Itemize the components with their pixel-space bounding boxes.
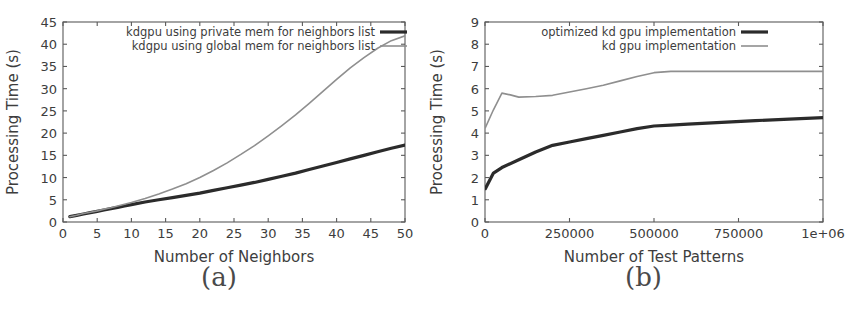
subcaption-a: (a)	[0, 262, 432, 292]
svg-text:6: 6	[471, 82, 479, 97]
svg-text:750000: 750000	[714, 226, 764, 241]
svg-text:5: 5	[49, 193, 57, 208]
svg-text:15: 15	[157, 226, 174, 241]
svg-text:45: 45	[40, 15, 57, 30]
svg-text:20: 20	[40, 126, 57, 141]
svg-text:50: 50	[397, 226, 414, 241]
svg-text:10: 10	[123, 226, 140, 241]
svg-text:8: 8	[471, 37, 479, 52]
svg-text:5: 5	[471, 104, 479, 119]
svg-text:7: 7	[471, 59, 479, 74]
svg-text:30: 30	[260, 226, 277, 241]
svg-text:10: 10	[40, 171, 57, 186]
svg-text:35: 35	[40, 59, 57, 74]
svg-text:0: 0	[481, 226, 489, 241]
svg-text:3: 3	[471, 148, 479, 163]
svg-text:optimized kd gpu implementatio: optimized kd gpu implementation	[541, 25, 736, 39]
svg-text:2: 2	[471, 171, 479, 186]
svg-text:15: 15	[40, 148, 57, 163]
chart-panel-b: 02500005000007500001e+060123456789Number…	[426, 0, 853, 311]
svg-text:4: 4	[471, 126, 479, 141]
svg-text:5: 5	[93, 226, 101, 241]
svg-text:40: 40	[40, 37, 57, 52]
svg-text:1: 1	[471, 193, 479, 208]
svg-text:1e+06: 1e+06	[801, 226, 845, 241]
svg-text:0: 0	[471, 215, 479, 230]
svg-text:20: 20	[192, 226, 209, 241]
svg-text:kdgpu using private mem for ne: kdgpu using private mem for neighbors li…	[126, 25, 375, 39]
svg-text:40: 40	[328, 226, 345, 241]
svg-text:Processing Time (s): Processing Time (s)	[4, 49, 22, 195]
subcaption-b: (b)	[426, 262, 853, 292]
svg-text:9: 9	[471, 15, 479, 30]
svg-text:Processing Time (s): Processing Time (s)	[428, 49, 446, 195]
svg-text:0: 0	[49, 215, 57, 230]
svg-text:500000: 500000	[629, 226, 679, 241]
svg-text:0: 0	[59, 226, 67, 241]
svg-text:kd gpu implementation: kd gpu implementation	[602, 39, 736, 53]
svg-text:25: 25	[226, 226, 243, 241]
svg-text:30: 30	[40, 82, 57, 97]
chart-panel-a: 05101520253035404550051015202530354045Nu…	[0, 0, 426, 311]
figure-row: 05101520253035404550051015202530354045Nu…	[0, 0, 853, 311]
svg-text:25: 25	[40, 104, 57, 119]
svg-text:35: 35	[294, 226, 311, 241]
svg-text:250000: 250000	[545, 226, 595, 241]
svg-text:45: 45	[363, 226, 380, 241]
svg-text:kdgpu using global mem for nei: kdgpu using global mem for neighbors lis…	[132, 39, 376, 53]
